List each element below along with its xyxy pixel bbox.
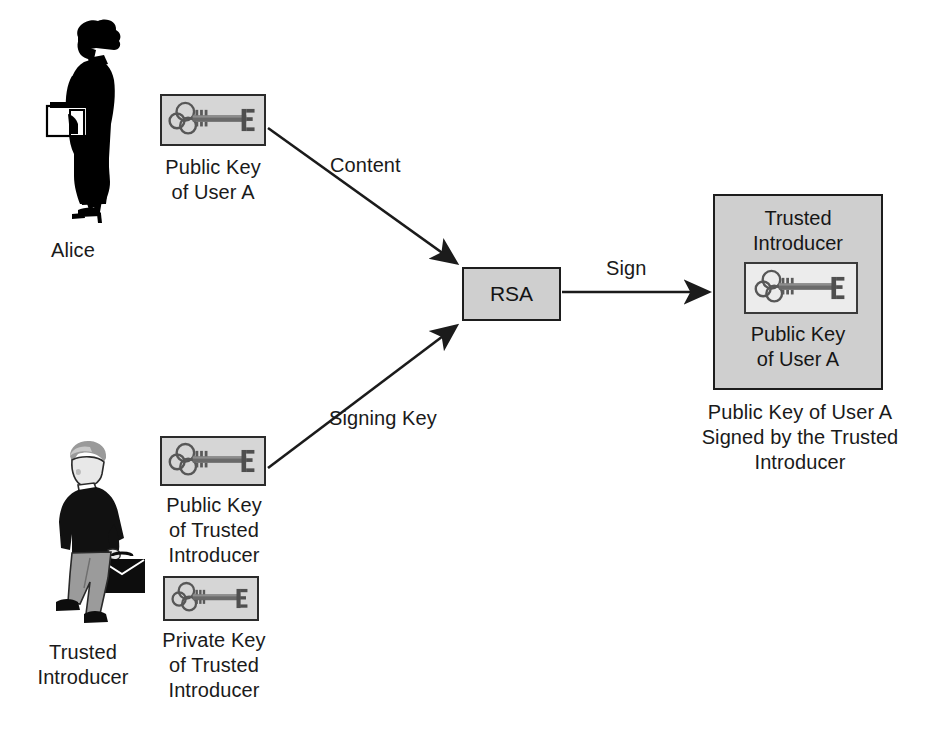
signed-result-caption: Public Key of User A Signed by the Trust…	[687, 400, 913, 475]
edge-label-signing-key: Signing Key	[329, 406, 469, 430]
man-with-briefcase-icon	[28, 438, 158, 638]
rsa-process-box: RSA	[462, 267, 561, 321]
signed-box-key-caption: Public Key of User A	[715, 322, 881, 372]
key-caption-introducer-public: Public Key of Trusted Introducer	[146, 493, 282, 568]
edge-label-content: Content	[330, 153, 420, 177]
key-icon	[162, 438, 264, 484]
key-box-signed-public	[744, 262, 858, 314]
alice-label: Alice	[14, 238, 132, 263]
signed-result-box: Trusted Introducer	[713, 194, 883, 390]
key-box-alice-public	[160, 94, 266, 146]
key-caption-alice-public: Public Key of User A	[148, 155, 278, 205]
key-icon	[162, 96, 264, 144]
key-box-introducer-private	[163, 576, 259, 621]
key-icon	[165, 578, 257, 619]
woman-silhouette-icon	[34, 14, 154, 229]
diagram-canvas: Alice	[0, 0, 927, 730]
edge-label-sign: Sign	[606, 256, 670, 280]
arrow-content	[268, 128, 455, 262]
arrow-signing-key	[268, 327, 455, 468]
key-caption-introducer-private: Private Key of Trusted Introducer	[146, 628, 282, 703]
rsa-label: RSA	[490, 282, 533, 306]
signed-box-header: Trusted Introducer	[715, 206, 881, 256]
trusted-introducer-label: Trusted Introducer	[12, 640, 154, 690]
key-icon	[746, 264, 856, 312]
key-box-introducer-public	[160, 436, 266, 486]
